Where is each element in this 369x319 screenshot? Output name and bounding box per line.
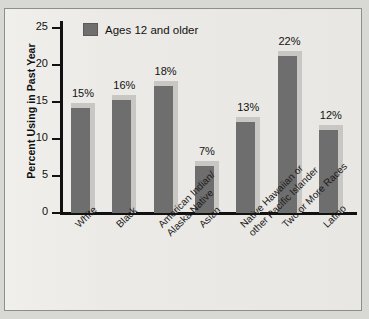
bar-highlight-side [90, 103, 95, 213]
chart-legend: Ages 12 and older [83, 23, 198, 36]
bar-face [112, 100, 131, 213]
y-tick-5: 5 [52, 175, 60, 177]
y-tick-15: 15 [52, 101, 60, 103]
y-tick-10: 10 [52, 138, 60, 140]
bar-value-label-1: 16% [113, 79, 135, 91]
y-tick-0: 0 [52, 212, 60, 214]
bar-native-hawaiian-or-other-pacific-islander [236, 117, 260, 213]
plot-area: Percent Using in Past Year 0 5 10 15 20 … [5, 9, 362, 311]
chart-figure: Percent Using in Past Year 0 5 10 15 20 … [4, 8, 362, 311]
bar-value-label-5: 22% [278, 35, 300, 47]
bar-highlight-side [131, 95, 136, 213]
bar-highlight-side [173, 81, 178, 213]
y-tick-label-15: 15 [36, 94, 48, 106]
bar-face [71, 108, 90, 213]
legend-label-ages-12-and-older: Ages 12 and older [105, 24, 198, 36]
legend-swatch-ages-12-and-older [83, 23, 98, 36]
y-tick-label-10: 10 [36, 131, 48, 143]
y-tick-25: 25 [52, 27, 60, 29]
y-tick-label-20: 20 [36, 57, 48, 69]
bar-value-label-6: 12% [320, 109, 342, 121]
bar-american-indian-alaska-native [154, 81, 178, 213]
bar-value-label-4: 13% [237, 101, 259, 113]
bar-face [236, 122, 255, 213]
bar-value-label-0: 15% [72, 87, 94, 99]
bar-white [71, 103, 95, 213]
y-tick-20: 20 [52, 64, 60, 66]
bar-face [154, 86, 173, 213]
bar-value-label-3: 7% [199, 145, 215, 157]
y-axis-line [60, 21, 63, 214]
y-tick-label-5: 5 [42, 168, 48, 180]
y-tick-label-25: 25 [36, 20, 48, 32]
y-tick-label-0: 0 [42, 205, 48, 217]
bar-black [112, 95, 136, 213]
bar-value-label-2: 18% [155, 65, 177, 77]
